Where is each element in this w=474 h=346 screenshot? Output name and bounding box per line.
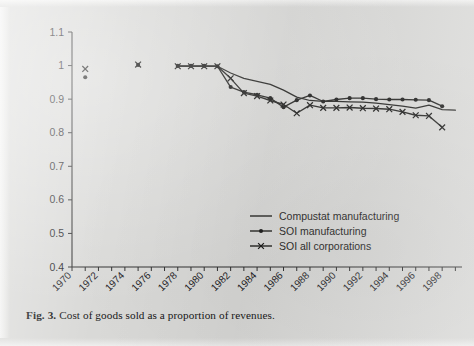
data-point-marker (321, 99, 325, 103)
line-chart: 0.40.50.60.70.80.911.1 19701972197419761… (0, 4, 474, 304)
figure-caption-text: Cost of goods sold as a proportion of re… (59, 309, 275, 321)
chart-series (82, 62, 455, 131)
x-tick-label: 1992 (341, 269, 365, 293)
data-point-marker (334, 97, 338, 101)
y-tick-label: 0.9 (49, 93, 64, 105)
data-point-marker (229, 85, 233, 89)
y-tick-label: 0.4 (49, 261, 64, 273)
x-tick-label: 1974 (103, 269, 127, 293)
data-point-marker (414, 98, 418, 102)
data-point-marker (228, 75, 234, 81)
legend-item: Compustat manufacturing (250, 210, 399, 222)
y-tick-label: 1.1 (49, 26, 64, 38)
data-point-marker (387, 97, 391, 101)
x-tick-label: 1990 (314, 269, 338, 293)
data-point-marker (400, 97, 404, 101)
data-point-marker (374, 97, 378, 101)
data-point-marker (361, 96, 365, 100)
series-1 (217, 66, 455, 110)
data-point-marker (82, 66, 88, 72)
data-point-marker (294, 110, 300, 116)
x-tick-label: 1984 (235, 269, 259, 293)
chart-legend: Compustat manufacturingSOI manufacturing… (250, 210, 399, 252)
figure-page: 0.40.50.60.70.80.911.1 19701972197419761… (0, 0, 474, 346)
x-tick-label: 1988 (288, 269, 312, 293)
x-tick-label: 1972 (76, 269, 100, 293)
page-edge-bottom (0, 338, 474, 346)
y-axis-ticks: 0.40.50.60.70.80.911.1 (49, 26, 72, 273)
y-tick-label: 0.8 (49, 126, 64, 138)
legend-label: SOI manufacturing (279, 225, 367, 237)
data-point-marker (427, 98, 431, 102)
y-tick-label: 0.5 (49, 227, 64, 239)
x-tick-label: 1970 (50, 269, 74, 293)
x-tick-label: 1982 (209, 269, 233, 293)
x-tick-label: 1998 (420, 269, 444, 293)
legend-label: Compustat manufacturing (279, 210, 399, 222)
data-point-marker (295, 98, 299, 102)
y-tick-label: 0.6 (49, 193, 64, 205)
legend-label: SOI all corporations (279, 240, 371, 252)
x-tick-label: 1994 (367, 269, 391, 293)
x-tick-label: 1978 (156, 269, 180, 293)
data-point-marker (308, 93, 312, 97)
data-point-marker (440, 104, 444, 108)
figure-caption-label: Fig. 3. (26, 309, 56, 321)
x-axis-ticks: 1970197219741976197819801982198419861988… (50, 267, 455, 293)
chart-plot-area: 0.40.50.60.70.80.911.1 19701972197419761… (0, 4, 474, 304)
x-tick-label: 1976 (129, 269, 153, 293)
y-tick-label: 1 (58, 59, 64, 71)
series-path (217, 66, 455, 110)
y-tick-label: 0.7 (49, 160, 64, 172)
data-point-marker (259, 229, 263, 233)
x-tick-label: 1986 (261, 269, 285, 293)
x-tick-label: 1996 (394, 269, 418, 293)
legend-item: SOI all corporations (250, 240, 371, 252)
legend-item: SOI manufacturing (250, 225, 367, 237)
figure-caption: Fig. 3. Cost of goods sold as a proporti… (26, 309, 460, 321)
data-point-marker (348, 96, 352, 100)
data-point-marker (439, 124, 445, 130)
x-tick-label: 1980 (182, 269, 206, 293)
chart-axes (72, 32, 462, 267)
data-point-marker (83, 75, 87, 79)
series-2 (83, 63, 444, 109)
